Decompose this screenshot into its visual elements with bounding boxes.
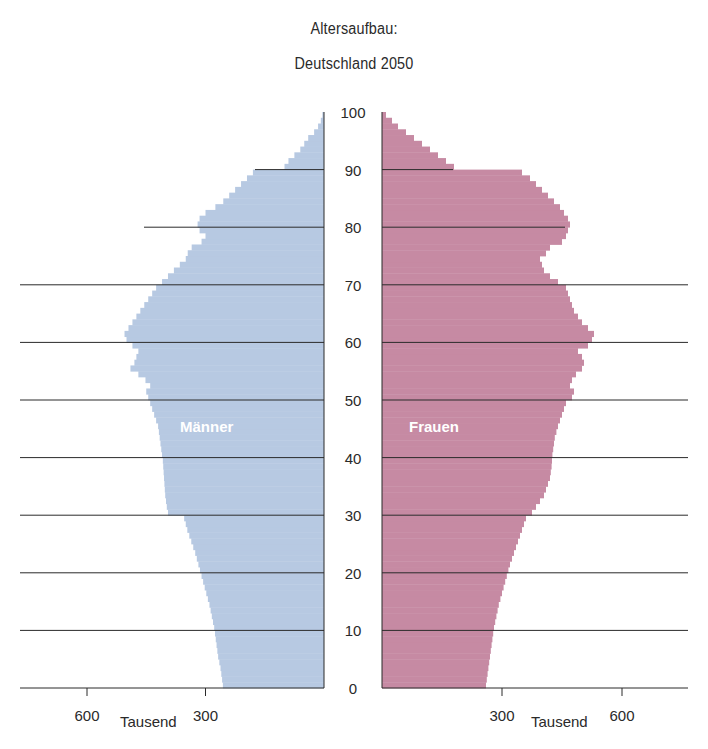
female-bar <box>382 296 570 302</box>
male-bar <box>134 360 324 366</box>
male-bar <box>152 406 324 412</box>
male-bar <box>164 475 324 481</box>
male-bar <box>188 250 324 256</box>
male-bar <box>167 504 324 510</box>
male-bar <box>217 648 324 654</box>
male-bar <box>132 342 324 348</box>
female-bar <box>382 239 562 245</box>
male-bar <box>219 659 324 665</box>
female-bar <box>382 204 560 210</box>
male-bar <box>144 302 324 308</box>
female-bar <box>382 475 550 481</box>
female-bar <box>382 319 582 325</box>
male-bar <box>247 175 324 181</box>
female-bar <box>382 625 494 631</box>
male-bar <box>156 285 324 291</box>
male-bar <box>253 170 324 176</box>
male-bar <box>163 463 324 469</box>
male-bar <box>202 573 324 579</box>
age-tick-label: 60 <box>345 334 362 351</box>
male-bar <box>215 630 324 636</box>
male-bar <box>211 607 324 613</box>
male-bar <box>164 469 324 475</box>
age-axis-labels: 0102030405060708090100 <box>340 104 365 697</box>
male-bar <box>191 538 324 544</box>
female-bar <box>382 653 490 659</box>
female-bar <box>382 504 536 510</box>
female-bar <box>382 613 496 619</box>
female-bar <box>382 671 488 677</box>
male-bar <box>161 446 324 452</box>
male-bar <box>145 377 324 383</box>
male-bar <box>235 187 324 193</box>
male-bar <box>288 158 324 164</box>
x-tick-label: 600 <box>609 707 634 724</box>
female-bar <box>382 659 489 665</box>
female-bar <box>382 216 568 222</box>
female-bar <box>382 129 406 135</box>
female-bar <box>382 337 592 343</box>
female-bar <box>382 682 486 688</box>
male-bar <box>136 314 324 320</box>
male-bar <box>208 596 324 602</box>
female-bar <box>382 584 504 590</box>
female-bar <box>382 665 488 671</box>
female-bar <box>382 579 505 585</box>
female-bar <box>382 273 550 279</box>
female-bar <box>382 365 582 371</box>
male-bar <box>215 204 324 210</box>
female-bar <box>382 412 562 418</box>
x-tick-label: 600 <box>74 707 99 724</box>
male-bar <box>160 440 324 446</box>
male-bar <box>180 262 324 268</box>
female-label: Frauen <box>409 418 459 435</box>
male-bar <box>130 365 324 371</box>
female-bar <box>382 291 568 297</box>
male-bar <box>206 233 325 239</box>
male-bar <box>216 636 324 642</box>
female-bar <box>382 342 588 348</box>
female-bar <box>382 181 536 187</box>
female-bar <box>382 268 544 274</box>
male-bar <box>209 602 324 608</box>
male-bar <box>189 532 324 538</box>
male-bar <box>202 239 324 245</box>
female-bar <box>382 561 510 567</box>
female-bar <box>382 509 532 515</box>
male-bar <box>160 435 324 441</box>
male-bar <box>128 325 324 331</box>
female-bar <box>382 233 566 239</box>
unit-label-right: Tausend <box>531 713 588 730</box>
male-bar <box>138 348 324 354</box>
female-bar <box>382 458 552 464</box>
female-bar <box>382 170 522 176</box>
female-bar <box>382 636 492 642</box>
female-bar <box>382 538 518 544</box>
female-bar <box>382 250 546 256</box>
age-tick-label: 30 <box>345 507 362 524</box>
male-bar <box>168 273 324 279</box>
female-bar <box>382 193 548 199</box>
female-bar <box>382 486 546 492</box>
female-bar <box>382 469 551 475</box>
male-label: Männer <box>180 418 234 435</box>
female-bar <box>382 158 446 164</box>
female-bar <box>382 676 487 682</box>
male-bar <box>294 152 324 158</box>
female-bar <box>382 371 576 377</box>
female-bar <box>382 377 572 383</box>
female-bar <box>382 550 514 556</box>
male-bar <box>154 412 324 418</box>
female-bar <box>382 279 558 285</box>
male-bar <box>205 584 324 590</box>
female-bar <box>382 141 422 147</box>
age-tick-label: 90 <box>345 162 362 179</box>
male-bar <box>222 676 324 682</box>
x-tick-label: 300 <box>489 707 514 724</box>
female-bar <box>382 302 572 308</box>
female-bar <box>382 642 492 648</box>
male-bar <box>206 590 324 596</box>
male-bar <box>187 527 324 533</box>
male-bar <box>213 619 324 625</box>
female-bar <box>382 152 438 158</box>
